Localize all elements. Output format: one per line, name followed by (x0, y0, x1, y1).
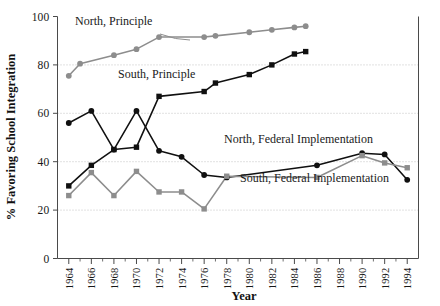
data-point (77, 61, 83, 67)
data-point (134, 108, 140, 114)
data-point (213, 33, 219, 39)
series-annotation-2: North, Federal Implementation (224, 132, 373, 146)
x-tick-label-1978: 1978 (222, 268, 233, 290)
y-tick-label-60: 60 (38, 107, 50, 119)
series-annotation-1: South, Principle (118, 67, 195, 81)
data-point (66, 183, 71, 188)
data-point (156, 94, 161, 99)
data-point (134, 169, 139, 174)
data-point (303, 23, 309, 29)
y-tick-label-40: 40 (38, 156, 50, 168)
chart-container: 020406080100 196419661968197019721974197… (0, 0, 440, 306)
x-tick-label-1968: 1968 (109, 268, 120, 290)
x-tick-label-1986: 1986 (312, 268, 323, 290)
x-tick-label-1974: 1974 (177, 267, 188, 289)
data-point (246, 29, 252, 35)
x-tick-label-1966: 1966 (86, 268, 97, 290)
x-tick-label-1984: 1984 (289, 267, 300, 289)
y-tick-labels: 020406080100 (32, 11, 50, 265)
data-point (201, 206, 206, 211)
x-tick-label-1976: 1976 (199, 268, 210, 290)
x-tick-label-1994: 1994 (402, 267, 413, 289)
data-point (224, 174, 229, 179)
data-point (179, 189, 184, 194)
y-tick-label-0: 0 (44, 253, 50, 265)
data-point (179, 154, 185, 160)
x-tick-label-1982: 1982 (267, 268, 278, 290)
x-axis-title: Year (232, 289, 257, 303)
data-point (89, 163, 94, 168)
data-point (89, 170, 94, 175)
x-tick-label-1988: 1988 (335, 268, 346, 290)
data-point (303, 49, 308, 54)
data-point (66, 73, 72, 79)
x-tick-label-1980: 1980 (244, 268, 255, 290)
x-tick-labels: 1964196619681970197219741976197819801982… (64, 267, 413, 289)
data-point (382, 152, 388, 158)
data-point (359, 153, 364, 158)
data-point (111, 147, 117, 153)
data-point (213, 80, 218, 85)
data-point (66, 120, 72, 126)
data-point (201, 172, 207, 178)
data-point (382, 160, 387, 165)
data-point (156, 189, 161, 194)
x-tick-label-1964: 1964 (64, 267, 75, 289)
data-point (134, 46, 140, 52)
x-tick-label-1992: 1992 (380, 268, 391, 290)
y-tick-label-20: 20 (38, 204, 50, 216)
x-tick-label-1990: 1990 (357, 268, 368, 290)
y-axis-title: % Favoring School Integration (4, 54, 18, 220)
data-point (404, 177, 410, 183)
data-point (247, 72, 252, 77)
data-point (201, 89, 206, 94)
data-point (314, 162, 320, 168)
data-point (66, 193, 71, 198)
data-point (134, 144, 139, 149)
data-point (111, 52, 117, 58)
series-annotation-3: South, Federal Implementation (240, 171, 389, 185)
data-point (405, 165, 410, 170)
data-point (201, 34, 207, 40)
data-point (156, 34, 162, 40)
y-tick-label-80: 80 (38, 59, 50, 71)
data-point (269, 62, 274, 67)
data-point (111, 193, 116, 198)
data-point (88, 108, 94, 114)
data-point (156, 148, 162, 154)
data-point (292, 24, 298, 30)
school-integration-line-chart: 020406080100 196419661968197019721974197… (0, 0, 440, 306)
x-tick-label-1970: 1970 (131, 268, 142, 290)
y-tick-label-100: 100 (32, 11, 50, 23)
x-tick-label-1972: 1972 (154, 268, 165, 290)
data-point (292, 51, 297, 56)
series-annotation-0: North, Principle (75, 14, 152, 28)
data-point (269, 27, 275, 33)
